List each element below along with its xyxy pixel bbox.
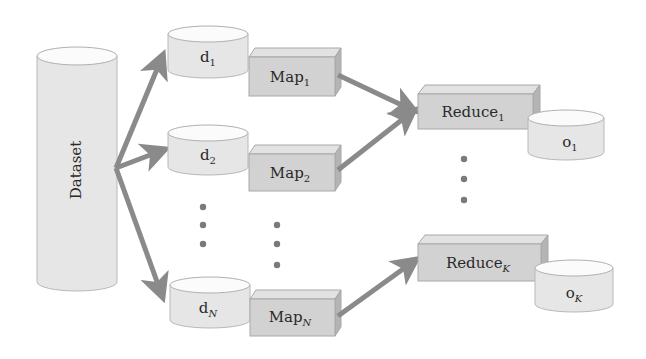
split-arrows: [116, 62, 160, 290]
reducer-k: ReduceK: [418, 235, 548, 281]
svg-text:Reduce1: Reduce1: [441, 103, 504, 123]
split-d2: d2: [168, 125, 248, 175]
mapper-2: Map2: [249, 145, 341, 191]
output-o1: o1: [528, 110, 604, 160]
svg-text:ReduceK: ReduceK: [446, 254, 511, 274]
mapreduce-diagram: Dataset d1 d2 dN Map1 Map2 MapN: [0, 0, 646, 359]
dataset-label: Dataset: [67, 141, 85, 200]
output-ok: oK: [535, 260, 613, 312]
mapper-1: Map1: [249, 48, 341, 96]
mapper-n: MapN: [250, 290, 341, 336]
shuffle-arrows: [338, 75, 410, 316]
split-d1: d1: [168, 26, 248, 78]
split-dn: dN: [170, 277, 250, 328]
dataset-cylinder: Dataset: [37, 47, 117, 291]
reducer-1: Reduce1: [418, 85, 540, 129]
